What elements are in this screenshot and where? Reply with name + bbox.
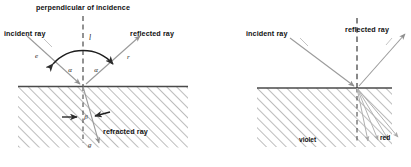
- left-normal-short-label: l: [89, 33, 91, 42]
- right-panel: incident ray reflected ray violet red: [246, 18, 405, 147]
- left-ray-in-letter: e: [35, 52, 38, 60]
- left-incident-ray-label: incident ray: [4, 29, 46, 38]
- left-ray-refr-letter: g: [88, 141, 92, 149]
- right-medium-block: [257, 88, 392, 147]
- right-violet-label: violet: [299, 136, 317, 143]
- right-red-label: red: [380, 134, 390, 141]
- left-reflected-ray-label: reflected ray: [130, 29, 174, 38]
- left-refracted-ray-label: refracted ray: [103, 127, 148, 136]
- left-medium-block: [18, 87, 188, 148]
- figure-canvas: perpendicular of incidence incident ray …: [0, 0, 411, 167]
- left-incident-leader: [44, 39, 52, 47]
- optics-figure: perpendicular of incidence incident ray …: [0, 0, 411, 167]
- left-panel: perpendicular of incidence incident ray …: [4, 3, 188, 149]
- right-incident-ray-label: incident ray: [246, 29, 288, 38]
- left-ray-out-letter: r: [127, 53, 130, 61]
- right-reflected-ray: [359, 34, 405, 86]
- left-angle-reflection-label: α: [94, 66, 98, 74]
- right-incident-leader: [300, 38, 308, 46]
- left-normal-title: perpendicular of incidence: [36, 3, 130, 12]
- left-incident-ray: [27, 36, 80, 84]
- left-angle-refraction-label: β: [83, 113, 88, 121]
- left-angle-incidence-label: α: [68, 66, 72, 74]
- right-incident-ray: [290, 38, 354, 86]
- right-reflected-leader: [386, 38, 392, 45]
- left-reflected-ray: [86, 36, 140, 84]
- right-reflected-ray-label: reflected ray: [345, 25, 389, 34]
